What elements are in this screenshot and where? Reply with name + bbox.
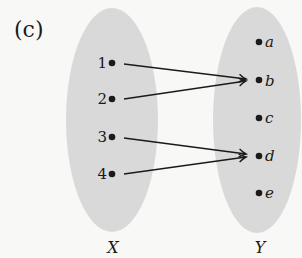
element-label: 1 [97,54,107,72]
set-x-ellipse [66,8,158,232]
point-dot [109,171,116,178]
element-label: 4 [97,165,107,183]
element-label: d [265,147,275,165]
element-label: b [265,72,275,90]
element-label: c [265,109,274,127]
point-dot [256,115,263,122]
point-dot [256,153,263,160]
element-label: e [265,184,274,202]
element-label: a [265,33,274,51]
element-label: 3 [97,128,107,146]
panel-label: (c) [14,17,44,42]
diagram-canvas: (c) 1 2 3 4 [0,0,302,258]
point-dot [109,60,116,67]
element-label: 2 [97,90,107,108]
point-dot [256,190,263,197]
set-x-label: X [105,238,119,257]
set-y-label: Y [255,238,267,257]
function-mapping-diagram: (c) 1 2 3 4 [0,0,302,258]
point-dot [256,39,263,46]
point-dot [256,77,263,84]
point-dot [109,96,116,103]
point-dot [109,134,116,141]
